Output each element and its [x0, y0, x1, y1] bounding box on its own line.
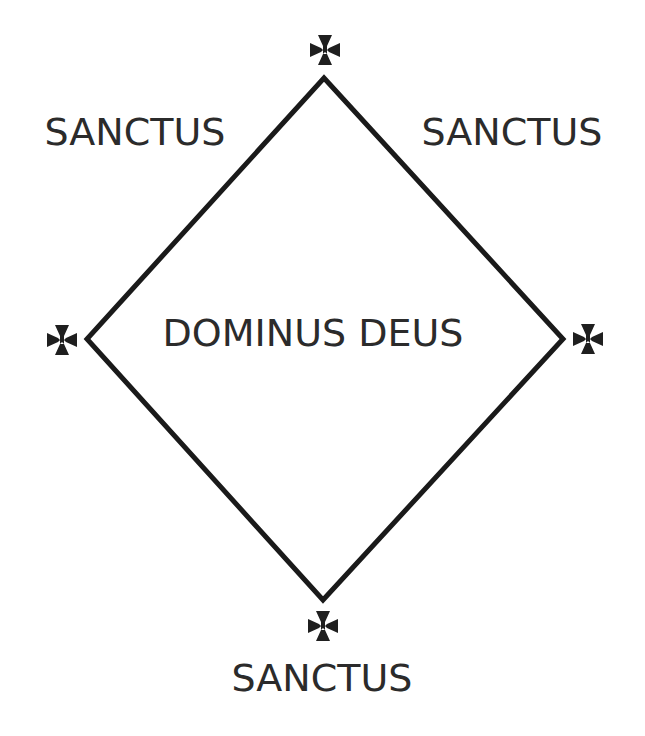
cross-pattee-icon [45, 323, 79, 357]
cross-pattee-icon [306, 609, 340, 643]
cross-pattee-icon [571, 322, 605, 356]
cross-pattee-icon [308, 33, 342, 67]
sanctus-diamond-diagram: SANCTUS SANCTUS DOMINUS DEUS SANCTUS [0, 0, 645, 736]
label-dominus-deus: DOMINUS DEUS [163, 314, 464, 352]
label-sanctus-bottom: SANCTUS [232, 659, 413, 697]
label-sanctus-top-left: SANCTUS [45, 113, 226, 151]
label-sanctus-top-right: SANCTUS [422, 113, 603, 151]
